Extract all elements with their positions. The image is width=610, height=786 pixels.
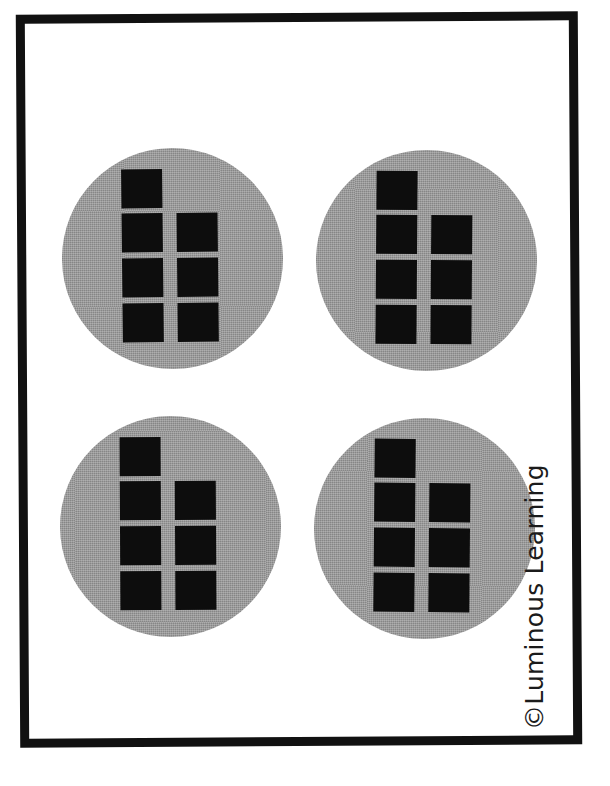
worksheet-page: ©Luminous Learning: [0, 0, 610, 786]
copyright-notice: ©Luminous Learning: [520, 430, 549, 730]
page-border-frame: [16, 11, 582, 747]
